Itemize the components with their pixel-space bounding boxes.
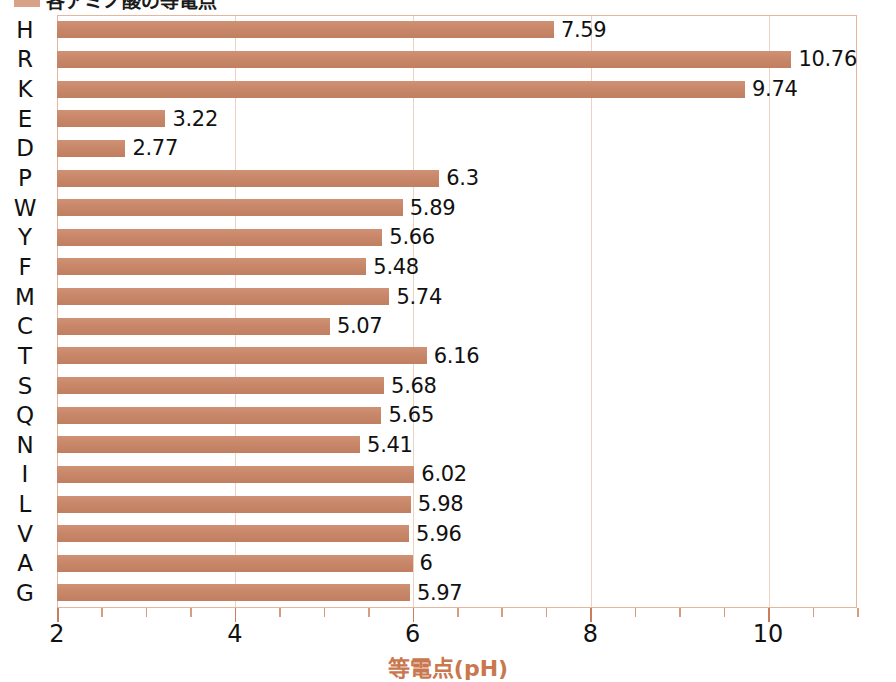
- bar-value-label-H: 7.59: [561, 18, 607, 42]
- x-tick-5: [324, 608, 326, 617]
- chart-legend: 各アミノ酸の等電点: [14, 0, 217, 12]
- bar-value-label-C: 5.07: [337, 314, 383, 338]
- bar-value-label-N: 5.41: [367, 433, 413, 457]
- bar-row: 7.59: [57, 15, 857, 45]
- bar-row: 5.66: [57, 222, 857, 252]
- y-axis-label-M: M: [0, 282, 50, 312]
- bar-value-label-S: 5.68: [391, 374, 437, 398]
- bar-value-label-F: 5.48: [373, 255, 419, 279]
- y-axis-label-T: T: [0, 341, 50, 371]
- y-axis-label-N: N: [0, 430, 50, 460]
- y-axis-label-L: L: [0, 489, 50, 519]
- y-axis-label-C: C: [0, 311, 50, 341]
- bar-value-label-Y: 5.66: [389, 225, 435, 249]
- bar-row: 3.22: [57, 104, 857, 134]
- y-axis-label-F: F: [0, 252, 50, 282]
- bar-D[interactable]: [57, 140, 125, 157]
- bar-row: 6.3: [57, 163, 857, 193]
- bar-row: 5.41: [57, 430, 857, 460]
- bar-row: 5.98: [57, 489, 857, 519]
- y-axis-label-A: A: [0, 549, 50, 579]
- bar-row: 6.16: [57, 341, 857, 371]
- bar-row: 5.74: [57, 282, 857, 312]
- x-tick-7: [501, 608, 503, 617]
- x-tick-3: [146, 608, 148, 617]
- y-axis-label-H: H: [0, 15, 50, 45]
- bar-I[interactable]: [57, 466, 414, 483]
- x-tick-11: [857, 608, 859, 617]
- bar-A[interactable]: [57, 555, 413, 572]
- y-axis-label-E: E: [0, 104, 50, 134]
- bar-W[interactable]: [57, 199, 403, 216]
- y-axis-label-I: I: [0, 460, 50, 490]
- x-tick-7.5: [546, 608, 548, 617]
- bar-row: 9.74: [57, 74, 857, 104]
- x-axis-tick-labels: 246810: [0, 620, 896, 652]
- bar-L[interactable]: [57, 496, 411, 513]
- bar-row: 5.96: [57, 519, 857, 549]
- bar-value-label-P: 6.3: [446, 166, 479, 190]
- bar-row: 5.97: [57, 578, 857, 608]
- y-axis-label-P: P: [0, 163, 50, 193]
- x-tick-9: [679, 608, 681, 617]
- y-axis-label-K: K: [0, 74, 50, 104]
- bar-value-label-M: 5.74: [396, 285, 442, 309]
- bar-value-label-K: 9.74: [752, 77, 798, 101]
- x-tick-6.5: [457, 608, 459, 617]
- bar-value-label-D: 2.77: [132, 136, 178, 160]
- x-tick-2.5: [101, 608, 103, 617]
- y-axis-label-V: V: [0, 519, 50, 549]
- bar-V[interactable]: [57, 525, 409, 542]
- bar-value-label-I: 6.02: [421, 462, 467, 486]
- bar-K[interactable]: [57, 81, 745, 98]
- bar-row: 2.77: [57, 134, 857, 164]
- bar-G[interactable]: [57, 584, 410, 601]
- bar-value-label-T: 6.16: [434, 344, 480, 368]
- bar-E[interactable]: [57, 110, 165, 127]
- y-axis-label-S: S: [0, 371, 50, 401]
- bar-Q[interactable]: [57, 407, 381, 424]
- x-tick-8.5: [635, 608, 637, 617]
- y-axis-label-Y: Y: [0, 222, 50, 252]
- bar-value-label-L: 5.98: [418, 492, 464, 516]
- y-axis-label-Q: Q: [0, 400, 50, 430]
- bar-R[interactable]: [57, 51, 791, 68]
- bar-F[interactable]: [57, 258, 366, 275]
- x-tick-label-6: 6: [405, 620, 420, 648]
- bar-value-label-A: 6: [420, 551, 433, 575]
- bar-S[interactable]: [57, 377, 384, 394]
- x-tick-label-8: 8: [583, 620, 598, 648]
- bar-row: 5.07: [57, 311, 857, 341]
- y-axis-label-D: D: [0, 134, 50, 164]
- y-axis-label-W: W: [0, 193, 50, 223]
- bar-P[interactable]: [57, 170, 439, 187]
- y-axis-label-R: R: [0, 45, 50, 75]
- bar-T[interactable]: [57, 347, 427, 364]
- bar-C[interactable]: [57, 318, 330, 335]
- bar-Y[interactable]: [57, 229, 382, 246]
- x-tick-5.5: [368, 608, 370, 617]
- x-axis-title: 等電点(pH): [0, 650, 896, 682]
- x-tick-9.5: [724, 608, 726, 617]
- bar-H[interactable]: [57, 21, 554, 38]
- y-axis-category-labels: HRKEDPWYFMCTSQNILVAG: [0, 15, 50, 608]
- bar-row: 5.68: [57, 371, 857, 401]
- bar-row: 5.65: [57, 400, 857, 430]
- bar-value-label-G: 5.97: [417, 581, 463, 605]
- bar-N[interactable]: [57, 436, 360, 453]
- bar-row: 6.02: [57, 460, 857, 490]
- x-tick-10.5: [813, 608, 815, 617]
- bar-row: 6: [57, 549, 857, 579]
- legend-color-swatch: [14, 0, 40, 7]
- bar-series-container: 7.5910.769.743.222.776.35.895.665.485.74…: [57, 15, 857, 608]
- x-tick-label-10: 10: [753, 620, 784, 648]
- x-tick-label-2: 2: [49, 620, 64, 648]
- bar-M[interactable]: [57, 288, 389, 305]
- bar-row: 5.48: [57, 252, 857, 282]
- bar-value-label-E: 3.22: [172, 107, 218, 131]
- x-tick-3.5: [190, 608, 192, 617]
- bar-value-label-R: 10.76: [798, 47, 857, 71]
- x-tick-4.5: [279, 608, 281, 617]
- legend-label: 各アミノ酸の等電点: [46, 0, 217, 11]
